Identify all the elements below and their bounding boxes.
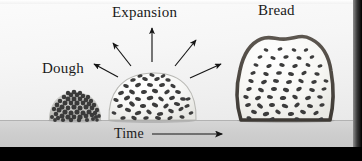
right-edge-shadow <box>353 0 362 147</box>
stage-expansion <box>109 73 196 121</box>
label-time: Time <box>114 126 144 142</box>
arrow-icon <box>94 64 118 77</box>
stage-dough <box>49 90 101 123</box>
arrow-icon <box>190 64 221 78</box>
expansion-arrows <box>94 28 221 78</box>
label-expansion: Expansion <box>112 4 177 21</box>
illustration-panel: Dough Expansion Bread Time <box>0 0 353 147</box>
arrow-icon <box>113 43 131 66</box>
label-dough: Dough <box>42 60 84 77</box>
arrow-icon <box>175 40 196 66</box>
label-bread: Bread <box>258 2 295 19</box>
dough-granules <box>50 90 101 123</box>
bottom-black-bar <box>0 147 362 161</box>
figure-bread-expansion: Dough Expansion Bread Time <box>0 0 362 161</box>
stage-bread <box>237 37 333 122</box>
